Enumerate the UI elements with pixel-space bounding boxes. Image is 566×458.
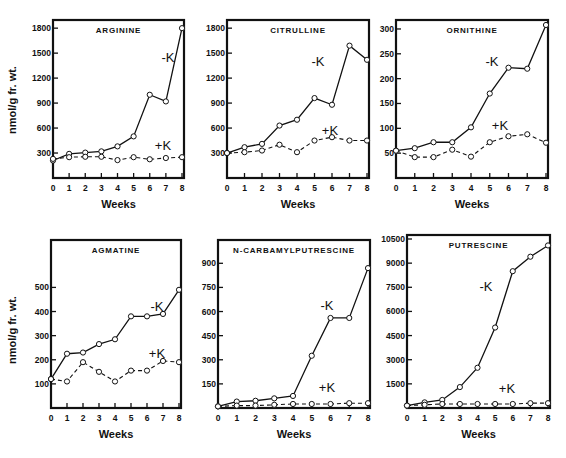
data-point (528, 401, 533, 406)
y-tick-label: 500 (35, 282, 49, 292)
x-tick-label: 1 (422, 413, 427, 423)
x-tick-label: 2 (253, 413, 258, 423)
x-tick-label: 3 (450, 183, 455, 193)
x-tick-label: 5 (312, 183, 317, 193)
x-tick-label: 6 (147, 183, 152, 193)
y-tick-label: 600 (202, 307, 216, 317)
y-tick-label: 750 (202, 282, 216, 292)
x-tick-label: 8 (544, 183, 549, 193)
x-tick-label: 3 (97, 413, 102, 423)
data-point (328, 315, 333, 320)
x-tick-label: 1 (65, 413, 70, 423)
chart-title: N-CARBAMYLPUTRESCINE (233, 246, 355, 255)
data-point (493, 325, 498, 330)
series-line-minus-k (227, 46, 367, 153)
data-point (144, 314, 149, 319)
data-point (115, 158, 120, 163)
series-label-minus-k: -K (486, 54, 499, 69)
x-tick-label: 2 (440, 413, 445, 423)
x-tick-label: 0 (216, 413, 221, 423)
data-point (506, 134, 511, 139)
y-tick-label: 250 (380, 49, 394, 59)
y-tick-label: 1500 (206, 48, 225, 58)
y-tick-label: 600 (211, 123, 225, 133)
data-point (115, 144, 120, 149)
x-axis-title: Weeks (461, 428, 496, 440)
data-point (163, 155, 168, 160)
data-point (64, 351, 69, 356)
data-point (83, 154, 88, 159)
data-point (277, 142, 282, 147)
data-point (112, 379, 117, 384)
y-tick-label: 400 (35, 307, 49, 317)
data-point (176, 360, 181, 365)
data-point (131, 155, 136, 160)
data-point (309, 401, 314, 406)
x-tick-label: 7 (164, 183, 169, 193)
data-point (294, 117, 299, 122)
series-label-minus-k: -K (151, 299, 164, 314)
chart-panel-putrescine: PUTRESCINE150030004500600075009000105000… (381, 234, 550, 440)
x-tick-label: 0 (51, 183, 56, 193)
x-tick-label: 6 (510, 413, 515, 423)
data-point (393, 148, 398, 153)
data-point (450, 147, 455, 152)
data-point (80, 350, 85, 355)
data-point (506, 65, 511, 70)
x-tick-label: 1 (242, 183, 247, 193)
series-label-minus-k: -K (480, 279, 493, 294)
y-tick-label: 4500 (386, 331, 405, 341)
series-label-plus-k: +K (149, 346, 166, 361)
x-tick-label: 4 (291, 413, 296, 423)
data-point (412, 155, 417, 160)
data-point (272, 396, 277, 401)
data-point (224, 150, 229, 155)
data-point (450, 140, 455, 145)
x-tick-label: 8 (177, 413, 182, 423)
data-point (431, 140, 436, 145)
data-point (365, 266, 370, 271)
plot-frame (218, 240, 370, 408)
data-point (487, 91, 492, 96)
y-tick-label: 100 (35, 379, 49, 389)
y-tick-label: 3000 (386, 355, 405, 365)
data-point (312, 95, 317, 100)
data-point (545, 401, 550, 406)
x-tick-label: 2 (81, 413, 86, 423)
y-tick-label: 200 (35, 355, 49, 365)
data-point (272, 402, 277, 407)
y-tick-label: 100 (380, 123, 394, 133)
data-point (163, 99, 168, 104)
x-tick-label: 4 (115, 183, 120, 193)
data-point (412, 146, 417, 151)
data-point (253, 403, 258, 408)
data-point (457, 384, 462, 389)
data-point (347, 315, 352, 320)
x-tick-label: 2 (431, 183, 436, 193)
data-point (528, 254, 533, 259)
data-point (404, 403, 409, 408)
data-point (468, 125, 473, 130)
y-tick-label: 1800 (32, 23, 51, 33)
y-tick-label: 1500 (386, 379, 405, 389)
x-tick-label: 5 (309, 413, 314, 423)
y-tick-label: 7500 (386, 282, 405, 292)
data-point (99, 154, 104, 159)
data-point (347, 401, 352, 406)
chart-title: PUTRESCINE (449, 241, 509, 250)
chart-panel-arginine: ARGININE300600900120015001800012345678We… (32, 20, 185, 210)
data-point (364, 138, 369, 143)
y-tick-label: 1200 (206, 73, 225, 83)
y-tick-label: 10500 (381, 234, 405, 244)
data-point (128, 368, 133, 373)
x-tick-label: 5 (129, 413, 134, 423)
x-tick-label: 1 (412, 183, 417, 193)
data-point (290, 393, 295, 398)
y-tick-label: 200 (380, 74, 394, 84)
data-point (259, 141, 264, 146)
x-axis-title: Weeks (281, 198, 316, 210)
data-point (144, 368, 149, 373)
data-point (96, 341, 101, 346)
chart-title: CITRULLINE (270, 26, 326, 35)
data-point (457, 401, 462, 406)
